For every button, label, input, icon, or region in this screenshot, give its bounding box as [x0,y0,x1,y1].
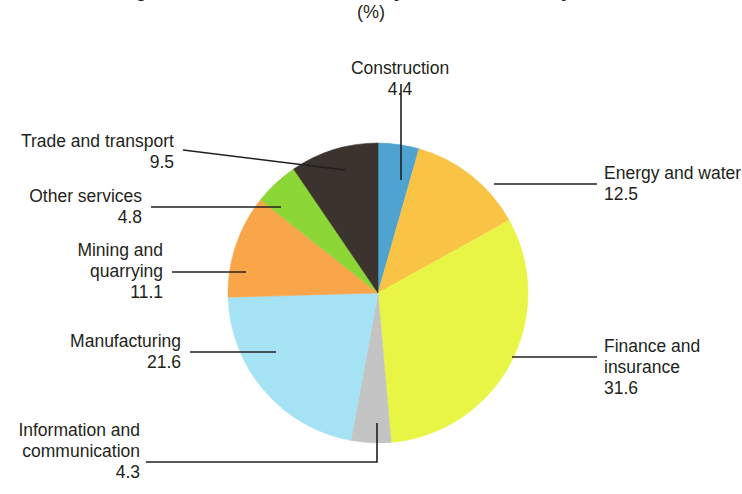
slice-label-information-and-communication-value: 4.3 [0,462,140,483]
slice-label-information-and-communication-name2: communication [0,441,140,462]
slice-label-energy-and-water: Energy and water 12.5 [604,163,741,205]
slice-label-information-and-communication: Information and communication 4.3 [0,420,140,483]
slice-label-energy-and-water-value: 12.5 [604,184,741,205]
pie-chart-figure: Figure 2. Gross value added by economic … [0,0,742,494]
slice-label-energy-and-water-name: Energy and water [604,163,741,184]
slice-label-finance-and-insurance-name2: insurance [604,357,700,378]
slice-label-mining-and-quarrying-value: 11.1 [0,282,163,303]
slice-label-trade-and-transport-value: 9.5 [0,152,174,173]
slice-label-other-services-value: 4.8 [0,207,142,228]
slice-label-other-services-name: Other services [0,186,142,207]
slice-label-manufacturing-value: 21.6 [0,352,181,373]
slice-label-construction: Construction 4.4 [292,58,508,100]
slice-label-manufacturing-name: Manufacturing [0,331,181,352]
slice-label-trade-and-transport-name: Trade and transport [0,131,174,152]
slice-label-mining-and-quarrying-name1: Mining and [0,240,163,261]
slice-label-mining-and-quarrying-name2: quarrying [0,261,163,282]
slice-label-finance-and-insurance-name1: Finance and [604,336,700,357]
slice-label-mining-and-quarrying: Mining and quarrying 11.1 [0,240,163,303]
slice-label-manufacturing: Manufacturing 21.6 [0,331,181,373]
slice-label-finance-and-insurance: Finance and insurance 31.6 [604,336,700,399]
slice-label-trade-and-transport: Trade and transport 9.5 [0,131,174,173]
slice-label-finance-and-insurance-value: 31.6 [604,378,700,399]
pie-slices-group [228,143,528,443]
slice-label-other-services: Other services 4.8 [0,186,142,228]
slice-label-information-and-communication-name1: Information and [0,420,140,441]
slice-label-construction-name: Construction [292,58,508,79]
slice-label-construction-value: 4.4 [292,79,508,100]
